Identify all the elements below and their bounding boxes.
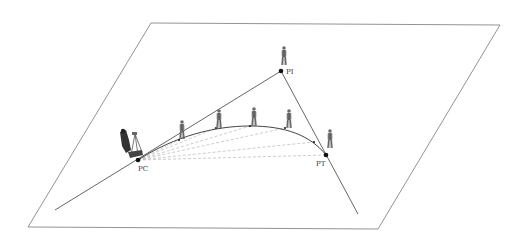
instrument-operator-icon xyxy=(120,129,143,158)
rodman-figure-icon xyxy=(282,46,287,65)
forward-tangent-line xyxy=(281,71,358,214)
back-tangent-line xyxy=(55,71,281,210)
rodman-figure-icon xyxy=(287,109,292,128)
rodman-figure-icon xyxy=(180,120,185,139)
rodman-figure-icon xyxy=(252,107,257,126)
pt-point xyxy=(324,153,329,158)
rodman-figure-icon xyxy=(328,129,333,148)
rodman-figure-icon xyxy=(217,109,222,128)
ground-plane xyxy=(28,23,500,229)
pc-point xyxy=(136,158,141,163)
pt-label: PT xyxy=(316,160,326,168)
curve-layout-diagram: PC PI PT xyxy=(0,0,527,239)
pc-label: PC xyxy=(138,165,148,173)
deflection-chords xyxy=(138,126,326,160)
circular-curve xyxy=(138,126,326,160)
pi-point xyxy=(279,69,284,74)
curve-station-markers xyxy=(178,125,315,143)
pi-label: PI xyxy=(286,68,294,76)
